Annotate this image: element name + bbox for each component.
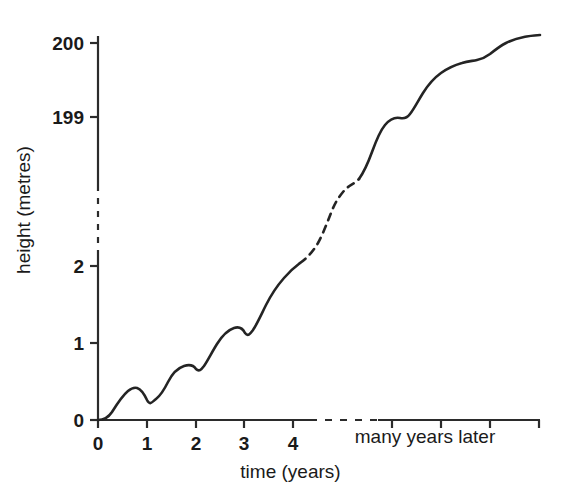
growth-curve-break-dashed xyxy=(300,179,359,263)
x-tick-label-3: 3 xyxy=(224,434,264,453)
x-tick-label-0: 0 xyxy=(78,434,118,453)
growth-curve-lower-solid xyxy=(98,263,300,420)
x-axis-far-caption: many years later xyxy=(355,427,495,446)
x-tick-label-4: 4 xyxy=(273,434,313,453)
y-axis-title: height (metres) xyxy=(14,0,33,420)
x-axis-title: time (years) xyxy=(0,462,581,481)
x-tick-label-2: 2 xyxy=(176,434,216,453)
growth-curve-upper-solid xyxy=(359,35,540,179)
x-tick-label-1: 1 xyxy=(127,434,167,453)
chart-figure: 200 199 2 1 0 0 1 2 3 4 many years later… xyxy=(0,0,581,501)
